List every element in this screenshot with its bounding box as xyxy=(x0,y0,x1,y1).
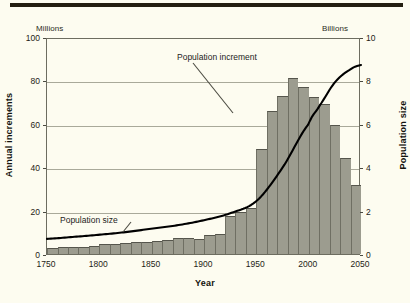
y2-tickmark xyxy=(360,125,363,126)
y2-tickmark xyxy=(360,38,363,39)
leader-line-population-increment xyxy=(193,63,233,113)
y2-tickmark xyxy=(360,255,363,256)
y-tickmark xyxy=(43,125,46,126)
plot-area: Population increment Population size xyxy=(46,38,360,255)
y2-tick-label-4: 4 xyxy=(366,163,392,173)
x-tick-label-2000: 2000 xyxy=(288,259,328,269)
x-tick-label-1750: 1750 xyxy=(26,259,66,269)
y-tick-label-80: 80 xyxy=(14,76,40,86)
population-chart-figure: Millions Billions Population increment P… xyxy=(0,0,410,303)
y2-tickmark xyxy=(360,212,363,213)
y-tickmark xyxy=(43,81,46,82)
x-tick-label-1850: 1850 xyxy=(131,259,171,269)
y2-tickmark xyxy=(360,81,363,82)
annotation-population-size: Population size xyxy=(60,215,118,225)
x-axis-title: Year xyxy=(0,278,410,288)
y-tick-label-40: 40 xyxy=(14,163,40,173)
right-axis-unit-label: Billions xyxy=(322,24,348,33)
x-tick-label-1950: 1950 xyxy=(235,259,275,269)
y2-axis-title: Population size xyxy=(398,100,408,169)
y-tickmark xyxy=(43,38,46,39)
y-tick-label-60: 60 xyxy=(14,120,40,130)
y-tickmark xyxy=(43,255,46,256)
y-tickmark xyxy=(43,168,46,169)
y-axis-title: Annual increments xyxy=(4,93,14,177)
y-tick-label-100: 100 xyxy=(14,33,40,43)
x-tick-label-2050: 2050 xyxy=(340,259,380,269)
y2-tickmark xyxy=(360,168,363,169)
annotation-population-increment: Population increment xyxy=(177,52,257,62)
x-tick-label-1900: 1900 xyxy=(183,259,223,269)
y-tick-label-20: 20 xyxy=(14,207,40,217)
chart-screenshot: Millions Billions Population increment P… xyxy=(0,0,410,303)
y2-tick-label-10: 10 xyxy=(366,33,392,43)
y-tickmark xyxy=(43,212,46,213)
leader-line-population-size xyxy=(123,222,131,232)
y2-tick-label-8: 8 xyxy=(366,76,392,86)
y2-tick-label-2: 2 xyxy=(366,207,392,217)
x-tick-label-1800: 1800 xyxy=(78,259,118,269)
y2-tick-label-6: 6 xyxy=(366,120,392,130)
left-axis-unit-label: Millions xyxy=(36,24,63,33)
